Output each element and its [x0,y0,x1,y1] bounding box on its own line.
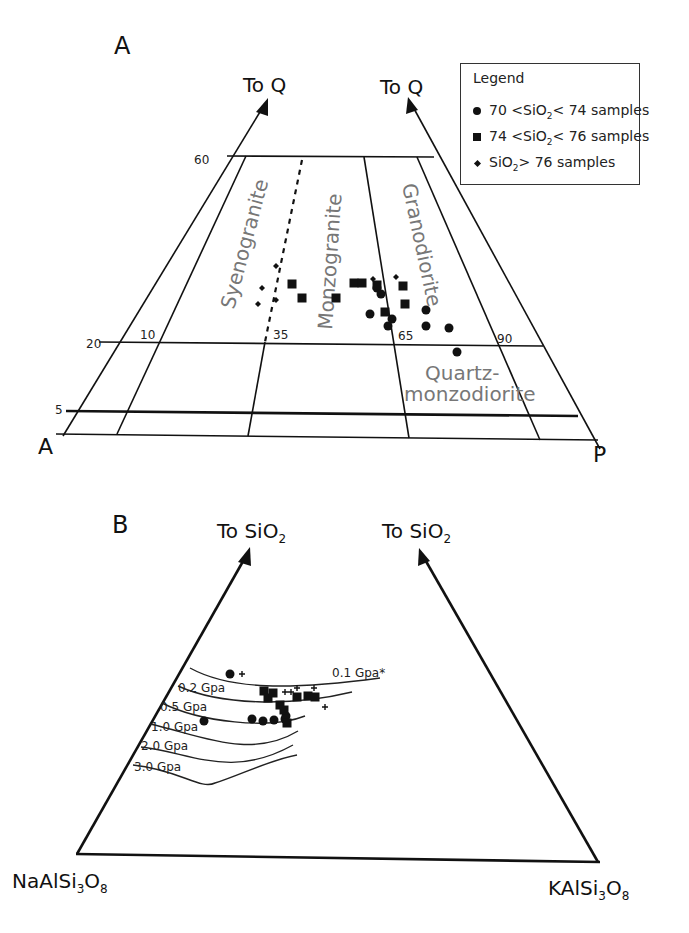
to-sio2-right-label: To SiO2 [381,519,451,546]
square-data-point [298,294,307,303]
panel-b: B To SiO2 To SiO2 0.1 Gpa* 0.2 Gpa 0.5 G… [12,511,629,903]
square-data-point [399,282,408,291]
label-0.2gpa: 0.2 Gpa [178,681,225,695]
panel-a-label: A [114,32,131,60]
circle-data-point [422,306,431,315]
label-1.0gpa: 1.0 Gpa [151,720,198,734]
circle-data-point [453,348,462,357]
q5-line [66,411,578,416]
q20-line [99,342,543,346]
square-data-point [280,706,289,715]
q-tick-60: 60 [194,153,209,167]
square-data-point [358,279,367,288]
arrow-head-left-icon [256,98,268,116]
circle-data-point [384,322,393,331]
square-marker-icon [473,133,481,141]
corner-albite-label: NaAlSi3O8 [12,869,108,896]
square-data-point [288,280,297,289]
legend-item-square: 74 <SiO2< 76 samples [469,128,649,147]
circle-data-point [377,290,386,299]
circle-marker-icon [473,107,481,115]
corner-a-label: A [38,434,53,459]
diamond-data-point [259,285,265,291]
square-data-point [269,689,278,698]
ap-tick-65: 65 [398,329,413,343]
field-syenogranite: Syenogranite [216,176,274,311]
q-tick-20: 20 [86,337,101,351]
square-data-point [350,279,359,288]
diamond-data-point [255,301,261,307]
legend-title: Legend [473,70,524,86]
square-data-point [401,300,410,309]
to-sio2-left-label: To SiO2 [216,519,286,546]
or-qz-axis [423,556,598,862]
circle-data-point [200,717,209,726]
ap35-line [248,342,265,436]
ab-or-baseline [76,854,600,862]
field-monzogranite: Monzogranite [313,193,346,331]
corner-orthoclase-label: KAlSi3O8 [548,876,629,903]
q-tick-5: 5 [55,403,63,417]
a-p-baseline [56,434,598,440]
circle-data-point [259,717,268,726]
legend-item-circle: 70 <SiO2< 74 samples [469,102,649,121]
circle-data-point [422,322,431,331]
circle-data-point [226,670,235,679]
circle-data-point [366,310,375,319]
square-data-point [293,693,302,702]
to-q-right-label: To Q [379,75,423,99]
ap-tick-35: 35 [273,328,288,342]
circle-data-point [270,716,279,725]
square-data-point [373,281,382,290]
square-data-point [381,308,390,317]
square-data-point [311,693,320,702]
label-2.0gpa: 2.0 Gpa [141,739,188,753]
ap-tick-10: 10 [140,328,155,342]
cross-data-point [311,685,317,691]
cross-data-point [239,671,245,677]
cross-data-point [322,704,328,710]
square-data-point [283,719,292,728]
to-q-left-label: To Q [242,73,286,97]
corner-p-label: P [593,442,606,467]
cross-data-point [282,689,288,695]
arrow-head-b-left-icon [238,547,251,566]
ap-tick-90: 90 [497,332,512,346]
legend-item-diamond: SiO2> 76 samples [469,154,615,173]
circle-data-point [248,715,257,724]
diamond-data-point [273,263,279,269]
circle-data-point [445,324,454,333]
diamond-marker-icon [473,159,480,166]
square-data-point [332,294,341,303]
label-0.5gpa: 0.5 Gpa [160,700,207,714]
panel-b-label: B [112,511,128,539]
legend: Legend 70 <SiO2< 74 samples 74 <SiO2< 76… [460,63,640,185]
label-3.0gpa: 3.0 Gpa [134,760,181,774]
label-0.1gpa: 0.1 Gpa* [332,666,385,680]
q60-line [227,156,434,157]
field-quartz-monzodiorite-2: monzodiorite [404,382,536,406]
diamond-data-point [393,274,399,280]
